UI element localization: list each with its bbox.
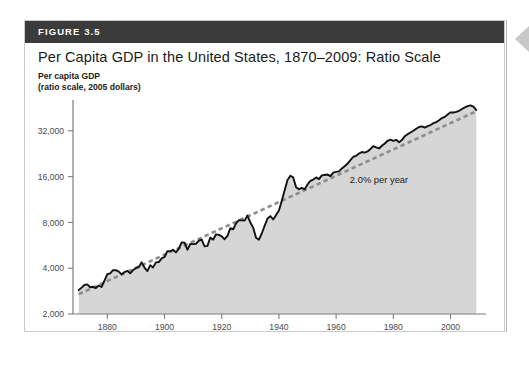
y-tick-label: 8,000 [42,218,64,228]
growth-rate-annotation: 2.0% per year [350,174,408,185]
figure-page: FIGURE 3.5 Per Capita GDP in the United … [0,0,529,379]
plot-area: 2,0004,0008,00016,00032,0001880190019201… [25,21,506,333]
y-tick-label: 2,000 [42,309,64,319]
figure-card: FIGURE 3.5 Per Capita GDP in the United … [24,20,505,332]
y-tick-label: 16,000 [38,172,65,182]
left-pointing-triangle-icon [515,26,529,52]
x-tick-label: 1960 [327,322,346,332]
x-tick-label: 1980 [384,322,403,332]
chart-svg: 2,0004,0008,00016,00032,0001880190019201… [25,21,506,333]
page-edge-rule [506,20,507,332]
gdp-area-fill [79,105,477,314]
y-tick-label: 4,000 [42,263,64,273]
x-tick-label: 1920 [212,322,231,332]
x-tick-label: 1900 [155,322,174,332]
x-tick-label: 1880 [98,322,117,332]
x-tick-label: 1940 [269,322,288,332]
x-tick-label: 2000 [441,322,460,332]
y-tick-label: 32,000 [38,126,65,136]
